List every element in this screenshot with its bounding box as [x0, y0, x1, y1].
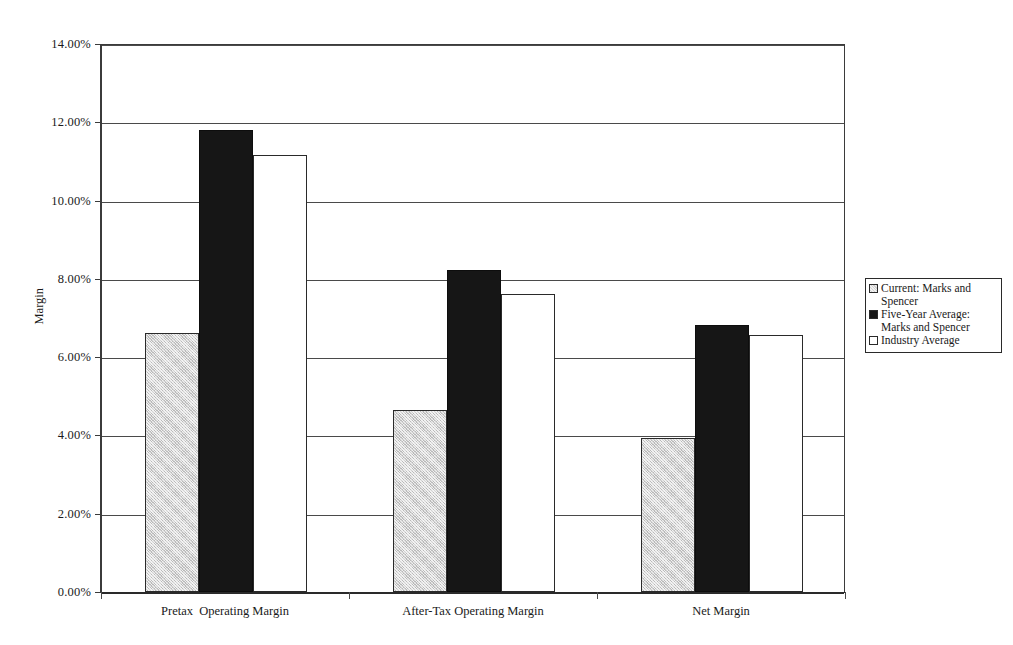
- x-category-label: Pretax Operating Margin: [101, 604, 349, 618]
- x-tick-mark: [101, 592, 102, 599]
- legend-item: Current: Marks and Spencer: [869, 282, 998, 307]
- y-tick-label: 4.00%: [21, 429, 91, 442]
- legend-label: Industry Average: [881, 334, 960, 347]
- bar-industry-1: [501, 294, 555, 592]
- legend-item: Industry Average: [869, 334, 998, 347]
- gridline: [102, 45, 844, 46]
- bar-fiveyear-2: [695, 325, 749, 592]
- bar-fiveyear-1: [447, 270, 501, 592]
- plot-area: [101, 44, 845, 592]
- y-tick-label: 12.00%: [21, 116, 91, 129]
- bar-current-0: [145, 333, 199, 592]
- bar-current-2: [641, 438, 695, 592]
- legend-label: Five-Year Average: Marks and Spencer: [881, 308, 998, 333]
- bar-current-1: [393, 410, 447, 592]
- x-tick-mark: [349, 592, 350, 599]
- legend-label: Current: Marks and Spencer: [881, 282, 998, 307]
- gridline: [102, 593, 844, 594]
- y-tick-label: 10.00%: [21, 195, 91, 208]
- legend-item: Five-Year Average: Marks and Spencer: [869, 308, 998, 333]
- gridline: [102, 123, 844, 124]
- y-tick-label: 2.00%: [21, 508, 91, 521]
- bar-fiveyear-0: [199, 130, 253, 592]
- chart-figure: Margin 0.00%2.00%4.00%6.00%8.00%10.00%12…: [0, 0, 1013, 645]
- legend-swatch-fiveyear-icon: [869, 310, 878, 319]
- x-axis-line: [101, 592, 846, 593]
- legend-swatch-current-icon: [869, 284, 878, 293]
- y-axis-title: Margin: [32, 295, 47, 325]
- y-tick-label: 0.00%: [21, 586, 91, 599]
- y-tick-label: 14.00%: [21, 38, 91, 51]
- y-tick-label: 8.00%: [21, 273, 91, 286]
- bar-industry-2: [749, 335, 803, 592]
- legend-swatch-industry-icon: [869, 336, 878, 345]
- y-tick-label: 6.00%: [21, 351, 91, 364]
- bar-industry-0: [253, 155, 307, 592]
- x-category-label: Net Margin: [597, 604, 845, 618]
- chart-legend: Current: Marks and SpencerFive-Year Aver…: [865, 278, 1002, 353]
- x-tick-mark: [845, 592, 846, 599]
- x-tick-mark: [597, 592, 598, 599]
- x-category-label: After-Tax Operating Margin: [349, 604, 597, 618]
